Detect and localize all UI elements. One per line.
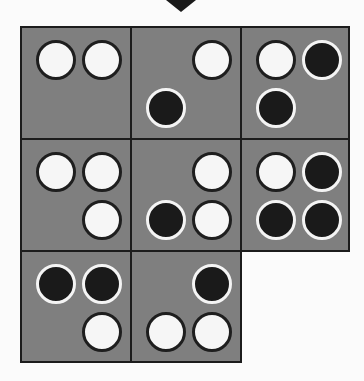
board-cell-r2-c1[interactable] (130, 250, 242, 363)
white-stone-top-left (256, 152, 296, 192)
black-stone-bottom-left (146, 88, 186, 128)
white-stone-bottom-right (82, 312, 122, 352)
white-stone-top-left (36, 152, 76, 192)
board-cell-r2-c0[interactable] (20, 250, 132, 363)
black-stone-bottom-left (256, 88, 296, 128)
black-stone-top-left (36, 264, 76, 304)
white-stone-bottom-right (192, 312, 232, 352)
white-stone-bottom-right (82, 200, 122, 240)
white-stone-bottom-left (146, 312, 186, 352)
arrow-down-icon (0, 0, 364, 20)
board-cell-r0-c1[interactable] (130, 26, 242, 140)
white-stone-top-left (256, 40, 296, 80)
board-cell-r1-c2[interactable] (240, 138, 350, 252)
black-stone-top-right (302, 40, 342, 80)
white-stone-top-right (192, 152, 232, 192)
black-stone-top-right (302, 152, 342, 192)
board-cell-r1-c0[interactable] (20, 138, 132, 252)
board-cell-r0-c0[interactable] (20, 26, 132, 140)
white-stone-top-right (82, 152, 122, 192)
white-stone-top-left (36, 40, 76, 80)
white-stone-top-right (192, 40, 232, 80)
white-stone-bottom-right (192, 200, 232, 240)
black-stone-bottom-right (302, 200, 342, 240)
black-stone-bottom-left (256, 200, 296, 240)
black-stone-top-right (192, 264, 232, 304)
black-stone-bottom-left (146, 200, 186, 240)
board-cell-r1-c1[interactable] (130, 138, 242, 252)
black-stone-top-right (82, 264, 122, 304)
white-stone-top-right (82, 40, 122, 80)
board-cell-r0-c2[interactable] (240, 26, 350, 140)
